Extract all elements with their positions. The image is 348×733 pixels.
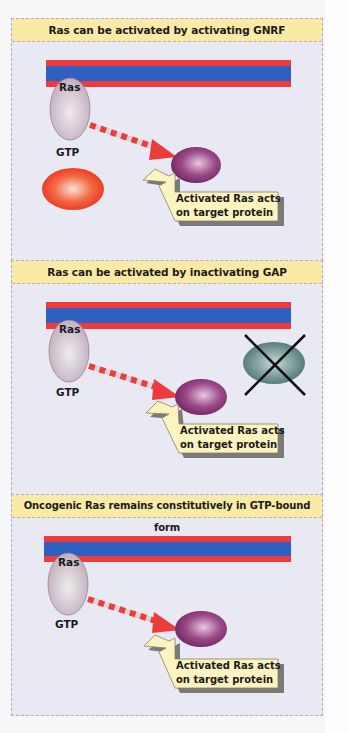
page-margin xyxy=(325,0,348,733)
panel-diagram xyxy=(12,261,324,496)
callout-line-2: on target protein xyxy=(176,206,273,220)
panel-gnrf: Ras can be activated by activating GNRF … xyxy=(11,18,323,261)
target-protein xyxy=(171,147,221,183)
dashed-arrow xyxy=(90,125,177,160)
ras-label: Ras xyxy=(58,556,79,568)
panel-diagram xyxy=(12,19,324,262)
callout-line-2: on target protein xyxy=(180,438,277,452)
gtp-label: GTP xyxy=(55,618,78,630)
membrane xyxy=(46,60,291,87)
gtp-label: GTP xyxy=(56,146,79,158)
target-protein xyxy=(175,379,227,415)
callout-line-1: Activated Ras acts xyxy=(176,192,281,206)
ras-label: Ras xyxy=(59,81,80,93)
membrane xyxy=(44,536,291,562)
panel-gap: Ras can be activated by inactivating GAP… xyxy=(11,260,323,495)
dashed-arrow xyxy=(88,599,180,633)
callout-line-1: Activated Ras acts xyxy=(180,424,285,438)
callout-line-1: Activated Ras acts xyxy=(176,659,281,673)
gtp-label: GTP xyxy=(56,386,79,398)
ras-label: Ras xyxy=(59,323,80,335)
panel-diagram xyxy=(12,495,324,717)
dashed-arrow xyxy=(89,366,180,400)
callout-line-2: on target protein xyxy=(176,673,273,687)
gnrf-protein xyxy=(42,168,104,210)
gap-protein-crossed xyxy=(243,335,305,395)
membrane xyxy=(46,302,291,329)
panel-oncogenic: Oncogenic Ras remains constitutively in … xyxy=(11,494,323,716)
target-protein xyxy=(175,611,227,647)
